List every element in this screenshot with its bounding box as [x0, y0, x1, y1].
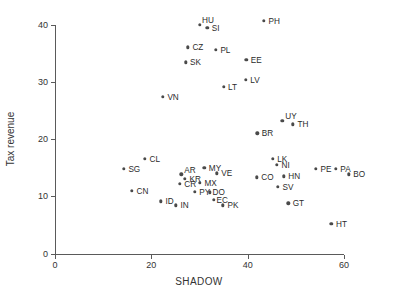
data-point-label: VE [221, 169, 232, 178]
data-point [143, 157, 146, 160]
data-point-label: CN [137, 187, 149, 196]
data-point [314, 167, 317, 170]
data-point-label: CO [261, 173, 273, 182]
x-tick-label: 20 [146, 260, 156, 270]
data-point-label: LT [228, 82, 237, 91]
y-tick-mark [51, 25, 55, 26]
x-tick-label: 0 [52, 260, 57, 270]
data-point [256, 132, 259, 135]
data-point [262, 19, 265, 22]
data-point-label: HT [336, 219, 347, 228]
data-point-label: MY [209, 163, 221, 172]
data-point-label: IN [180, 201, 188, 210]
data-point [215, 172, 218, 175]
x-tick-mark [55, 255, 56, 259]
data-point [276, 185, 279, 188]
x-tick-label: 60 [339, 260, 349, 270]
data-point-label: HN [288, 172, 300, 181]
data-point-label: GT [293, 199, 304, 208]
data-point [161, 95, 164, 98]
y-tick-mark [51, 139, 55, 140]
data-point-label: PK [228, 201, 239, 210]
data-point [184, 61, 187, 64]
data-point [222, 85, 225, 88]
data-point-label: BO [353, 170, 365, 179]
data-point [208, 191, 211, 194]
y-tick-label: 30 [38, 77, 48, 87]
data-point [334, 167, 337, 170]
x-tick-mark [248, 255, 249, 259]
data-point [198, 181, 201, 184]
x-tick-mark [344, 255, 345, 259]
data-point [193, 190, 196, 193]
x-axis-title: SHADOW [175, 276, 222, 287]
x-axis-line [55, 254, 344, 255]
data-point [244, 78, 247, 81]
y-tick-label: 0 [43, 249, 48, 259]
data-point-label: CL [150, 155, 160, 164]
data-point [174, 204, 177, 207]
y-tick-mark [51, 82, 55, 83]
data-point-label: SV [283, 183, 294, 192]
data-point [286, 201, 289, 204]
data-point [281, 119, 284, 122]
data-point-label: SI [212, 24, 220, 33]
data-point [347, 173, 350, 176]
data-point [130, 189, 133, 192]
data-point-label: PH [269, 17, 280, 26]
data-point-label: PE [321, 164, 332, 173]
data-point-label: LV [250, 76, 259, 85]
y-axis-title: Tax revenue [5, 112, 16, 166]
data-point [330, 222, 333, 225]
data-point [179, 173, 182, 176]
y-tick-label: 20 [38, 134, 48, 144]
data-point-label: PL [220, 45, 230, 54]
data-point [271, 157, 274, 160]
data-point-label: TH [297, 120, 308, 129]
data-point-label: SK [190, 58, 201, 67]
data-point-label: SG [128, 164, 140, 173]
data-point-label: ID [165, 197, 173, 206]
scatter-plot-figure: 0204060 010203040 SHADOW Tax revenue HUS… [0, 0, 396, 304]
data-point [275, 163, 278, 166]
data-point [186, 46, 189, 49]
data-point-label: BR [262, 129, 273, 138]
data-point-label: UY [285, 111, 296, 120]
data-point [255, 176, 258, 179]
x-tick-mark [151, 255, 152, 259]
data-point [122, 167, 125, 170]
y-tick-label: 10 [38, 191, 48, 201]
y-tick-mark [51, 196, 55, 197]
y-tick-label: 40 [38, 20, 48, 30]
data-point [159, 200, 162, 203]
data-point [178, 182, 181, 185]
data-point [212, 198, 215, 201]
data-point [291, 122, 294, 125]
data-point [221, 204, 224, 207]
data-point-label: CZ [192, 43, 203, 52]
data-point-label: CR [184, 179, 196, 188]
y-axis-line [55, 25, 56, 254]
data-point-label: EE [251, 55, 262, 64]
data-point [282, 175, 285, 178]
data-point [206, 26, 209, 29]
data-point-label: HU [202, 15, 214, 24]
data-point [245, 58, 248, 61]
data-point-label: NI [282, 160, 290, 169]
data-point [214, 48, 217, 51]
data-point-label: AR [184, 166, 195, 175]
data-point [203, 166, 206, 169]
data-point-label: VN [167, 92, 178, 101]
y-tick-mark [51, 254, 55, 255]
x-tick-label: 40 [243, 260, 253, 270]
